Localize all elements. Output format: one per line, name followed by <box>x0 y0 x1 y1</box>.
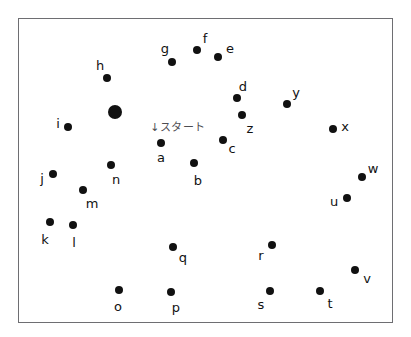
dot-h[interactable] <box>103 74 111 82</box>
dot-label-r: r <box>258 249 263 262</box>
dot-a[interactable] <box>157 139 165 147</box>
dot-label-u: u <box>330 195 338 208</box>
dot-label-s: s <box>258 298 265 311</box>
dot-j[interactable] <box>49 170 57 178</box>
dot-m[interactable] <box>79 186 87 194</box>
dot-label-d: d <box>239 80 247 93</box>
dot-label-z: z <box>247 122 254 135</box>
dot-label-l: l <box>72 236 76 249</box>
dot-label-e: e <box>226 42 234 55</box>
dot-label-a: a <box>157 151 165 164</box>
dot-w[interactable] <box>358 173 366 181</box>
dot-label-t: t <box>327 297 332 310</box>
dot-b[interactable] <box>190 159 198 167</box>
start-annotation-label: ↓スタート <box>150 122 206 133</box>
dot-g[interactable] <box>168 58 176 66</box>
dot-s[interactable] <box>266 287 274 295</box>
dot-e[interactable] <box>214 53 222 61</box>
puzzle-frame-border <box>18 18 393 323</box>
dot-o[interactable] <box>115 286 123 294</box>
dot-label-m: m <box>86 197 99 210</box>
dot-x[interactable] <box>329 125 337 133</box>
dot-n[interactable] <box>107 161 115 169</box>
dot-label-g: g <box>161 42 169 55</box>
dot-label-o: o <box>114 300 122 313</box>
dot-z[interactable] <box>238 111 246 119</box>
dot-label-n: n <box>112 173 120 186</box>
dot-y[interactable] <box>283 100 291 108</box>
dot-c[interactable] <box>219 136 227 144</box>
dot-f[interactable] <box>193 46 201 54</box>
dot-label-w: w <box>368 162 379 175</box>
dot-label-p: p <box>172 301 180 314</box>
dot-p[interactable] <box>167 288 175 296</box>
dot-v[interactable] <box>351 266 359 274</box>
dot-label-j: j <box>40 172 44 185</box>
dot-label-c: c <box>228 142 235 155</box>
dot-label-q: q <box>179 251 187 264</box>
dot-label-b: b <box>194 174 202 187</box>
dot-k[interactable] <box>46 218 54 226</box>
puzzle-canvas: abcdefghijklmnopqrstuvwxyz ↓スタート <box>0 0 411 337</box>
dot-start-marker[interactable] <box>108 105 122 119</box>
dot-d[interactable] <box>233 94 241 102</box>
dot-label-y: y <box>292 86 300 99</box>
dot-label-v: v <box>363 272 371 285</box>
dot-i[interactable] <box>64 123 72 131</box>
dot-label-i: i <box>56 117 60 130</box>
dot-label-f: f <box>203 32 208 45</box>
dot-u[interactable] <box>343 194 351 202</box>
dot-label-h: h <box>96 59 104 72</box>
dot-label-k: k <box>41 233 49 246</box>
dot-q[interactable] <box>169 243 177 251</box>
dot-r[interactable] <box>268 241 276 249</box>
dot-t[interactable] <box>316 287 324 295</box>
dot-label-x: x <box>341 120 349 133</box>
dot-l[interactable] <box>69 221 77 229</box>
